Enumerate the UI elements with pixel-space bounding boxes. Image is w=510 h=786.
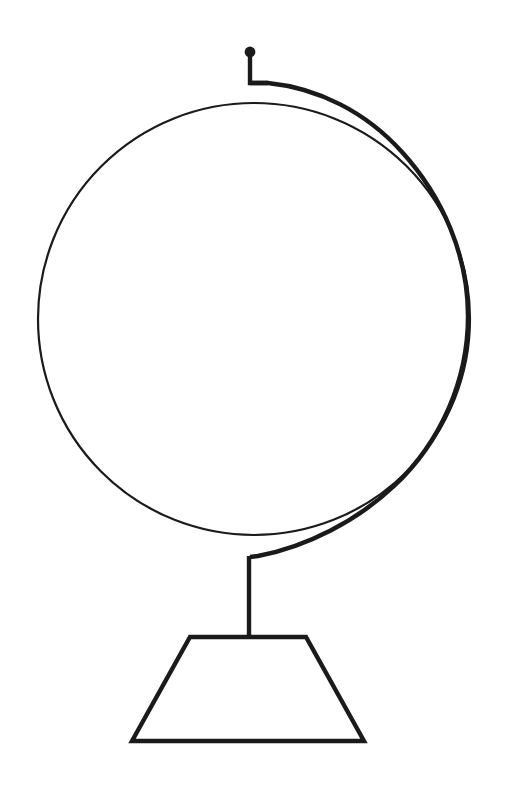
- axis-pin-knob-icon: [245, 47, 256, 58]
- globe-illustration: [0, 0, 510, 786]
- canvas-background: [0, 0, 510, 786]
- illustration-canvas: [0, 0, 510, 786]
